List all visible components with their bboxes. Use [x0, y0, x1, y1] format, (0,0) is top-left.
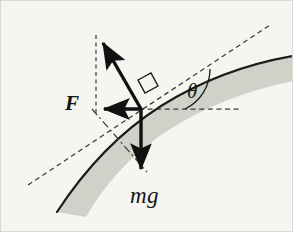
right-angle-square — [138, 73, 158, 93]
angle-theta-label: θ — [187, 81, 197, 102]
normal-force-vector — [103, 43, 141, 109]
curved-inclined-surface — [57, 56, 293, 217]
weight-mg-label: mg — [130, 184, 159, 207]
physics-diagram-figure: F mg θ — [0, 0, 293, 232]
right-angle-marker — [138, 73, 158, 93]
force-F-label: F — [65, 93, 79, 114]
surface-band-fill — [57, 56, 293, 217]
